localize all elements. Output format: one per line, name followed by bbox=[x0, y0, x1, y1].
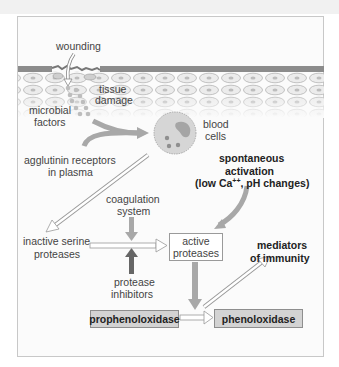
conditions-pre: (low Ca bbox=[195, 177, 232, 189]
spontaneous-arrow bbox=[214, 186, 247, 229]
label-microbial: microbial bbox=[29, 104, 71, 116]
label-damage: damage bbox=[95, 94, 133, 106]
label-agglutinin: agglutinin receptors bbox=[24, 154, 116, 166]
label-blood: blood bbox=[203, 118, 229, 130]
active-to-prophenol-arrow bbox=[188, 262, 202, 310]
prophenol-to-phenol-arrow bbox=[180, 311, 213, 324]
label-conditions: (low Ca++, pH changes) bbox=[195, 177, 309, 189]
blood-cell-icon bbox=[154, 112, 196, 154]
label-wounding: wounding bbox=[56, 40, 101, 52]
label-factors: factors bbox=[34, 116, 66, 128]
coagulation-arrow bbox=[125, 217, 138, 241]
label-proteases: proteases bbox=[34, 248, 80, 260]
label-activation: activation bbox=[225, 165, 274, 177]
label-coagulation: coagulation bbox=[106, 193, 160, 205]
label-inactive-serine: inactive serine bbox=[23, 235, 90, 247]
label-mediators: mediators bbox=[257, 239, 307, 251]
inhibitors-arrow bbox=[125, 248, 138, 274]
active-proteases-line1: active bbox=[182, 235, 209, 247]
inactive-to-active-arrow bbox=[90, 239, 167, 252]
box-phenoloxidase: phenoloxidase bbox=[214, 309, 303, 328]
label-inhibitors: inhibitors bbox=[111, 288, 153, 300]
box-active-proteases: active proteases bbox=[169, 233, 223, 261]
label-protease: protease bbox=[114, 276, 155, 288]
label-cells: cells bbox=[205, 130, 226, 142]
label-spontaneous: spontaneous bbox=[219, 152, 284, 164]
label-of-immunity: of immunity bbox=[250, 252, 310, 264]
active-proteases-line2: proteases bbox=[173, 247, 219, 259]
box-prophenoloxidase: prophenoloxidase bbox=[90, 310, 179, 328]
conditions-sup: ++ bbox=[232, 177, 240, 184]
conditions-post: , pH changes) bbox=[241, 177, 310, 189]
microbial-to-blood-arrow bbox=[84, 121, 149, 146]
label-in-plasma: in plasma bbox=[48, 166, 93, 178]
label-system: system bbox=[117, 205, 150, 217]
